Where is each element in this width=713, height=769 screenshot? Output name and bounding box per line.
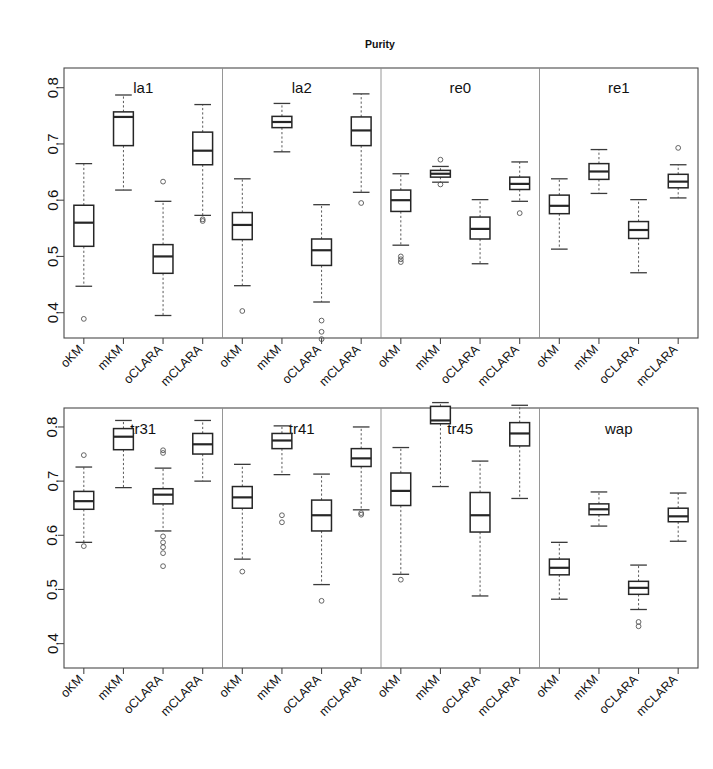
box-tr31-mKM[interactable] bbox=[114, 420, 134, 487]
outlier-point bbox=[81, 453, 86, 458]
box-re1-oCLARA[interactable] bbox=[629, 200, 649, 273]
x-tick-label-oKM: oKM bbox=[533, 672, 561, 700]
box-re0-oKM[interactable] bbox=[391, 174, 411, 265]
box-tr41-oKM[interactable] bbox=[232, 464, 252, 574]
x-tick-label-mCLARA: mCLARA bbox=[158, 342, 205, 389]
box-wap-oCLARA[interactable] bbox=[629, 565, 649, 629]
box-la1-oKM[interactable] bbox=[74, 164, 94, 322]
outlier-point bbox=[161, 179, 166, 184]
y-tick-label: 0.6 bbox=[44, 190, 61, 211]
group-label-la1: la1 bbox=[133, 79, 153, 96]
x-tick-label-mKM: mKM bbox=[571, 342, 602, 373]
box-la2-oKM[interactable] bbox=[232, 179, 252, 314]
box-re1-mKM[interactable] bbox=[589, 150, 609, 194]
box-wap-mCLARA[interactable] bbox=[668, 493, 688, 541]
box-rect[interactable] bbox=[232, 213, 252, 240]
outlier-point bbox=[161, 540, 166, 545]
box-re1-mCLARA[interactable] bbox=[668, 145, 688, 197]
box-tr31-oCLARA[interactable] bbox=[153, 448, 173, 569]
outlier-point bbox=[280, 520, 285, 525]
y-tick-label: 0.4 bbox=[44, 633, 61, 654]
box-la2-mKM[interactable] bbox=[272, 103, 292, 151]
x-tick-label-mCLARA: mCLARA bbox=[475, 342, 522, 389]
box-la1-mKM[interactable] bbox=[114, 95, 134, 190]
y-tick-label: 0.5 bbox=[44, 246, 61, 267]
outlier-point bbox=[398, 577, 403, 582]
box-tr45-mCLARA[interactable] bbox=[510, 405, 530, 498]
group-label-re0: re0 bbox=[449, 79, 471, 96]
group-label-wap: wap bbox=[604, 420, 633, 437]
box-rect[interactable] bbox=[549, 195, 569, 214]
y-tick-label: 0.6 bbox=[44, 525, 61, 546]
box-la2-oCLARA[interactable] bbox=[312, 205, 332, 342]
group-label-re1: re1 bbox=[608, 79, 630, 96]
outlier-point bbox=[280, 513, 285, 518]
x-tick-label-mKM: mKM bbox=[412, 342, 443, 373]
box-tr45-oCLARA[interactable] bbox=[470, 461, 490, 596]
panel-1: 0.40.50.60.70.8tr31oKMmKMoCLARAmCLARAtr4… bbox=[44, 403, 699, 719]
box-re0-mKM[interactable] bbox=[431, 157, 451, 187]
x-tick-label-oKM: oKM bbox=[58, 342, 86, 370]
x-tick-label-mKM: mKM bbox=[95, 342, 126, 373]
group-label-tr45: tr45 bbox=[447, 420, 473, 437]
box-wap-mKM[interactable] bbox=[589, 492, 609, 526]
box-rect[interactable] bbox=[153, 489, 173, 504]
boxplot-canvas: 0.40.50.60.70.8la1oKMmKMoCLARAmCLARAla2o… bbox=[0, 0, 713, 769]
y-tick-label: 0.8 bbox=[44, 77, 61, 98]
x-tick-label-mKM: mKM bbox=[95, 672, 126, 703]
box-tr31-mCLARA[interactable] bbox=[193, 420, 213, 481]
group-label-la2: la2 bbox=[292, 79, 312, 96]
outlier-point bbox=[81, 316, 86, 321]
box-tr31-oKM[interactable] bbox=[74, 453, 94, 549]
box-la1-mCLARA[interactable] bbox=[193, 105, 213, 224]
box-la2-mCLARA[interactable] bbox=[351, 94, 371, 206]
outlier-point bbox=[161, 551, 166, 556]
box-rect[interactable] bbox=[74, 205, 94, 246]
box-wap-oKM[interactable] bbox=[549, 542, 569, 599]
x-tick-label-mCLARA: mCLARA bbox=[317, 342, 364, 389]
outlier-point bbox=[517, 211, 522, 216]
x-tick-label-mCLARA: mCLARA bbox=[634, 342, 681, 389]
box-re0-oCLARA[interactable] bbox=[470, 200, 490, 264]
outlier-point bbox=[240, 569, 245, 574]
x-tick-label-mCLARA: mCLARA bbox=[475, 672, 522, 719]
x-tick-label-oKM: oKM bbox=[375, 342, 403, 370]
box-tr41-mKM[interactable] bbox=[272, 426, 292, 525]
box-rect[interactable] bbox=[153, 245, 173, 274]
y-tick-label: 0.7 bbox=[44, 134, 61, 155]
group-label-tr31: tr31 bbox=[130, 420, 156, 437]
chart-title: Purity bbox=[365, 38, 395, 50]
box-rect[interactable] bbox=[312, 239, 332, 265]
outlier-point bbox=[359, 201, 364, 206]
x-tick-label-mCLARA: mCLARA bbox=[634, 672, 681, 719]
x-tick-label-oKM: oKM bbox=[216, 672, 244, 700]
box-tr41-oCLARA[interactable] bbox=[312, 474, 332, 603]
box-la1-oCLARA[interactable] bbox=[153, 179, 173, 315]
box-re0-mCLARA[interactable] bbox=[510, 162, 530, 216]
y-tick-label: 0.7 bbox=[44, 471, 61, 492]
box-re1-oKM[interactable] bbox=[549, 179, 569, 249]
outlier-point bbox=[161, 564, 166, 569]
box-tr45-mKM[interactable] bbox=[431, 403, 451, 487]
box-rect[interactable] bbox=[668, 508, 688, 522]
box-rect[interactable] bbox=[114, 429, 134, 450]
box-tr45-oKM[interactable] bbox=[391, 448, 411, 583]
outlier-point bbox=[319, 598, 324, 603]
outlier-point bbox=[161, 534, 166, 539]
box-rect[interactable] bbox=[193, 132, 213, 165]
y-tick-label: 0.5 bbox=[44, 579, 61, 600]
x-tick-label-mKM: mKM bbox=[254, 342, 285, 373]
x-tick-label-oKM: oKM bbox=[375, 672, 403, 700]
outlier-point bbox=[319, 329, 324, 334]
x-tick-label-mKM: mKM bbox=[254, 672, 285, 703]
x-tick-label-oKM: oKM bbox=[216, 342, 244, 370]
box-tr41-mCLARA[interactable] bbox=[351, 427, 371, 517]
outlier-point bbox=[81, 544, 86, 549]
outlier-point bbox=[319, 318, 324, 323]
y-tick-label: 0.4 bbox=[44, 302, 61, 323]
box-rect[interactable] bbox=[391, 473, 411, 506]
group-label-tr41: tr41 bbox=[289, 420, 315, 437]
box-rect[interactable] bbox=[470, 493, 490, 533]
x-tick-label-mKM: mKM bbox=[412, 672, 443, 703]
x-tick-label-mCLARA: mCLARA bbox=[317, 672, 364, 719]
